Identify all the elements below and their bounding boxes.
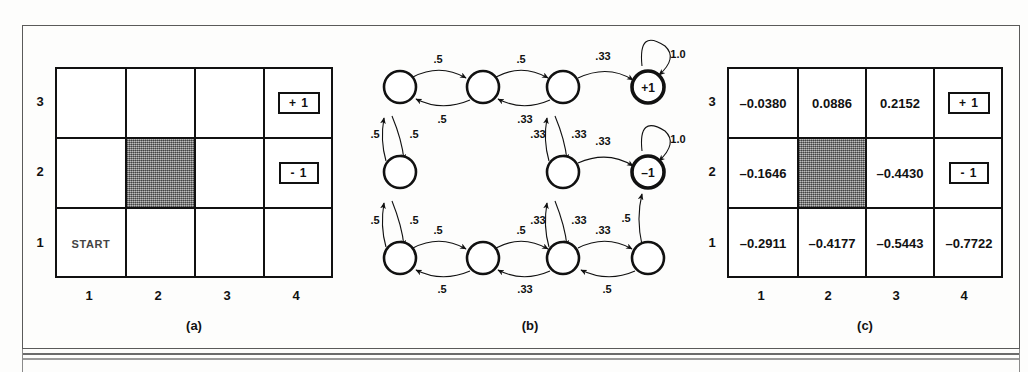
transition-diagram-b: +1 –1 .5 .5 .5 .33 .33 1.0 .5 .5 .5 .5 .… xyxy=(370,30,690,290)
grid-c-terminal-negative: - 1 xyxy=(949,162,988,184)
bottom-rule-bottom xyxy=(22,358,1020,360)
edge-label-selfloop-minus: 1.0 xyxy=(670,133,685,145)
graph-node-label-plus-one: +1 xyxy=(641,81,655,95)
grid-c-cell-r3c2: 0.0886 xyxy=(799,69,865,137)
grid-a-start-label: START xyxy=(72,238,111,250)
grid-c-row-label-3: 3 xyxy=(703,94,721,109)
grid-c-cell-r1c1: –0.2911 xyxy=(729,209,797,278)
graph-node-n11 xyxy=(384,242,416,274)
grid-c-cell-r2c1: –0.1646 xyxy=(729,139,797,207)
grid-a-col-label-3: 3 xyxy=(212,288,242,303)
edge-label-selfloop-plus: 1.0 xyxy=(670,48,685,60)
grid-a-cell-r3c4: + 1 xyxy=(265,69,333,137)
grid-a-col-label-2: 2 xyxy=(143,288,173,303)
edge-label-n13-n23: .5 xyxy=(433,53,442,65)
edge-label-n31-n32: .33 xyxy=(530,214,545,226)
graph-node-label-minus-one: –1 xyxy=(641,166,655,180)
edge-label-n23-n13: .5 xyxy=(437,113,446,125)
edge-label-n23-n33: .5 xyxy=(516,53,525,65)
bottom-rule-top xyxy=(22,353,1020,355)
grid-c-cell-r3c3: 0.2152 xyxy=(867,69,933,137)
edge-label-n32-n31: .33 xyxy=(571,214,586,226)
grid-a-vline-2 xyxy=(194,69,196,276)
graph-node-n21 xyxy=(467,242,499,274)
grid-c-cell-r3c4: + 1 xyxy=(935,69,1003,137)
frame-side-right xyxy=(1019,349,1020,372)
grid-c-cell-r2c3: –0.4430 xyxy=(867,139,933,207)
grid-a-col-label-4: 4 xyxy=(281,288,311,303)
grid-a-cell-r1c1: START xyxy=(57,209,125,278)
panel-caption-b: (b) xyxy=(490,318,570,333)
grid-a-terminal-negative: - 1 xyxy=(279,162,318,184)
grid-c-blocked-cell xyxy=(799,139,865,207)
edge-label-n31-n41: .33 xyxy=(595,224,610,236)
edge-label-n21-n11: .5 xyxy=(437,283,446,295)
edge-label-n32-minus: .33 xyxy=(595,135,610,147)
grid-c-cell-r2c4: - 1 xyxy=(935,139,1003,207)
grid-a-row-label-2: 2 xyxy=(31,164,49,179)
graph-node-n31 xyxy=(547,242,579,274)
panel-caption-c: (c) xyxy=(825,318,905,333)
grid-c-cell-r3c1: –0.0380 xyxy=(729,69,797,137)
grid-a-cell-r2c4: - 1 xyxy=(265,139,333,207)
panel-caption-a: (a) xyxy=(154,318,234,333)
grid-a-row-label-3: 3 xyxy=(31,94,49,109)
grid-c-col-label-1: 1 xyxy=(746,288,776,303)
grid-c-cell-r1c2: –0.4177 xyxy=(799,209,865,278)
value-grid-c: –0.0380 0.0886 0.2152 + 1 –0.1646 –0.443… xyxy=(727,67,1003,278)
edge-label-n11-n21: .5 xyxy=(433,224,442,236)
graph-node-n32 xyxy=(547,156,579,188)
edge-label-n33-n32: .33 xyxy=(571,128,586,140)
grid-world-a: + 1 - 1 START xyxy=(55,67,333,278)
graph-node-n33 xyxy=(547,71,579,103)
grid-c-terminal-positive: + 1 xyxy=(948,92,990,114)
edge-label-n12-n11: .5 xyxy=(409,214,418,226)
edge-label-n11-n12: .5 xyxy=(370,214,379,226)
edge-label-n33-plus: .33 xyxy=(595,50,610,62)
edge-label-n12-n13: .5 xyxy=(370,128,379,140)
grid-c-cell-r1c4: –0.7722 xyxy=(935,209,1003,278)
edge-label-n13-n12: .5 xyxy=(409,128,418,140)
grid-c-cell-r1c3: –0.5443 xyxy=(867,209,933,278)
graph-node-n41 xyxy=(632,242,664,274)
grid-c-col-label-3: 3 xyxy=(881,288,911,303)
frame-side-left xyxy=(22,349,23,372)
grid-c-row-label-1: 1 xyxy=(703,235,721,250)
graph-node-n12 xyxy=(384,156,416,188)
figure-page: + 1 - 1 START 3 2 1 1 2 3 4 (a) xyxy=(0,0,1028,372)
grid-a-row-label-1: 1 xyxy=(31,235,49,250)
grid-c-col-label-2: 2 xyxy=(813,288,843,303)
edge-label-n33-n23: .33 xyxy=(517,113,532,125)
edge-label-n41-n31: .5 xyxy=(602,283,611,295)
edge-label-n31-n21: .33 xyxy=(517,283,532,295)
edge-label-n41-minus: .5 xyxy=(621,212,630,224)
grid-a-col-label-1: 1 xyxy=(74,288,104,303)
grid-c-row-label-2: 2 xyxy=(703,164,721,179)
grid-c-col-label-4: 4 xyxy=(949,288,979,303)
edge-label-n32-n33: .33 xyxy=(530,128,545,140)
graph-node-n23 xyxy=(467,71,499,103)
graph-node-n13 xyxy=(384,71,416,103)
grid-a-terminal-positive: + 1 xyxy=(278,92,320,114)
grid-a-blocked-cell xyxy=(127,139,194,207)
edge-label-n21-n31: .5 xyxy=(516,224,525,236)
